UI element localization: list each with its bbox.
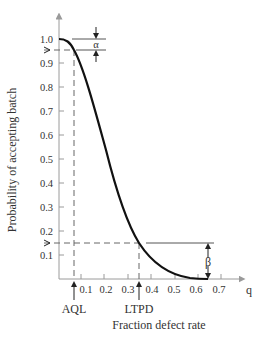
y-axis-title: Probability of accepting batch — [5, 88, 19, 232]
y-tick-label: 0.6 — [40, 130, 53, 141]
alpha-label: α — [93, 39, 99, 50]
y-tick-label: 0.2 — [40, 226, 53, 237]
y-tick-label: 0.8 — [40, 82, 53, 93]
aql-label: AQL — [62, 302, 87, 316]
x-tick-labels: 0.1 0.2 0.3 0.4 0.5 0.6 0.7 — [79, 284, 225, 295]
x-tick-label: 0.3 — [121, 284, 134, 295]
y-tick-label: 0.5 — [40, 154, 53, 165]
y-ticks — [59, 39, 64, 255]
y-tick-label: 0.3 — [40, 202, 53, 213]
x-tick-label: 0.2 — [99, 284, 112, 295]
y-tick-label: 0.1 — [40, 250, 53, 261]
y-tick-label: 0.4 — [40, 178, 54, 189]
beta-label: β — [205, 255, 211, 269]
oc-curve-chart: 1.0 0.9 0.8 0.7 0.6 0.5 0.4 0.3 0.2 0.1 … — [0, 0, 263, 341]
x-axis-title: Fraction defect rate — [112, 318, 205, 332]
y-tick-labels: 1.0 0.9 0.8 0.7 0.6 0.5 0.4 0.3 0.2 0.1 — [40, 34, 54, 261]
ltpd-label: LTPD — [125, 302, 154, 316]
x-tick-label: 0.7 — [212, 284, 225, 295]
y-tick-label: 0.7 — [40, 106, 53, 117]
x-tick-label: 0.4 — [145, 284, 159, 295]
x-tick-label: 0.6 — [189, 284, 202, 295]
y-tick-label: 1.0 — [40, 34, 53, 45]
x-tick-label: 0.5 — [167, 284, 180, 295]
x-tick-label: 0.1 — [79, 284, 92, 295]
x-axis-symbol-q: q — [246, 283, 252, 297]
y-tick-label: 0.9 — [40, 58, 53, 69]
